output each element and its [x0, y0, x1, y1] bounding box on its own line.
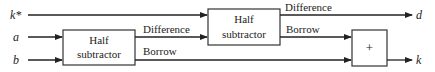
hs1-borrow-label: Borrow — [143, 45, 177, 57]
hs1-label-line1: Half — [89, 34, 109, 46]
hs2-label-line2: subtractor — [222, 28, 266, 40]
or-gate-plus-symbol: + — [366, 40, 373, 55]
hs2-borrow-label: Borrow — [286, 23, 320, 35]
input-label-kstar: k* — [10, 8, 21, 22]
input-label-b: b — [13, 53, 19, 67]
output-label-k: k — [416, 53, 422, 67]
hs2-label-line1: Half — [234, 13, 254, 25]
hs1-difference-label: Difference — [143, 23, 190, 35]
hs1-label-line2: subtractor — [77, 48, 121, 60]
full-subtractor-diagram: k* a b Half subtractor Difference Borrow… — [0, 0, 435, 72]
input-label-a: a — [13, 30, 19, 44]
output-label-d: d — [416, 8, 423, 22]
hs2-difference-label: Difference — [285, 1, 332, 13]
